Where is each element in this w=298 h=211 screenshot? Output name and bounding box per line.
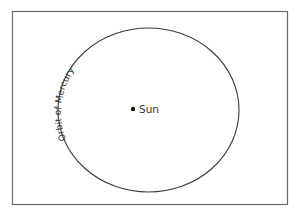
sun-dot-icon bbox=[131, 107, 135, 111]
orbit-diagram: Sun Orbit of Mercury bbox=[0, 0, 298, 211]
sun-label: Sun bbox=[139, 103, 159, 115]
